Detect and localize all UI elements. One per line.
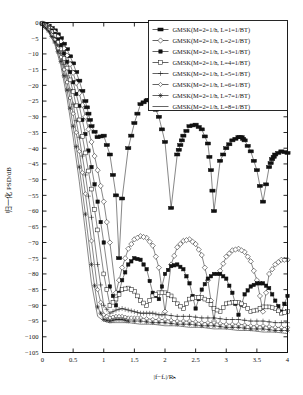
data-point: [227, 143, 232, 146]
data-point: [237, 313, 240, 316]
data-point: [98, 311, 103, 316]
data-point: [264, 305, 268, 309]
data-point: [260, 200, 265, 203]
data-point: [80, 135, 84, 139]
data-point: [212, 323, 217, 328]
y-tick-label: −50: [28, 176, 39, 183]
data-point: [245, 144, 250, 147]
data-point: [169, 321, 174, 326]
data-point: [254, 327, 259, 332]
data-point: [142, 263, 145, 266]
data-point: [240, 302, 244, 306]
data-point: [158, 93, 163, 98]
y-tick-label: −80: [28, 270, 39, 277]
data-point: [77, 118, 81, 122]
data-point: [191, 296, 195, 300]
data-point: [129, 288, 133, 292]
data-point: [129, 134, 134, 137]
data-point: [136, 257, 139, 260]
data-point: [160, 285, 163, 288]
data-point: [92, 283, 97, 288]
data-point: [252, 309, 256, 313]
data-point: [276, 151, 281, 154]
data-point: [258, 307, 262, 311]
data-point: [83, 100, 88, 103]
data-point: [166, 292, 170, 296]
data-point: [181, 134, 186, 137]
y-tick-label: −35: [28, 129, 39, 136]
data-point: [159, 128, 164, 131]
data-point: [234, 300, 238, 304]
data-point: [102, 241, 105, 244]
data-point: [157, 297, 160, 300]
data-point: [270, 306, 274, 310]
data-point: [90, 187, 94, 191]
data-point: [96, 228, 100, 232]
data-point: [144, 319, 149, 324]
data-point: [193, 323, 198, 328]
data-point: [123, 271, 126, 274]
data-point: [90, 165, 93, 168]
legend-label: GMSK(M=2=1/h, L=6=1/BT): [173, 81, 251, 89]
data-point: [221, 275, 224, 278]
data-point: [145, 268, 148, 271]
data-point: [271, 155, 276, 158]
legend-label: GMSK(M=2=1/h, L=3=1/BT): [173, 48, 251, 56]
data-point: [218, 324, 223, 329]
data-point: [221, 306, 225, 310]
data-point: [283, 311, 287, 315]
y-tick-label: −90: [28, 302, 39, 309]
data-point: [120, 197, 125, 200]
data-point: [93, 208, 97, 212]
data-point: [156, 115, 161, 118]
data-point: [130, 260, 133, 263]
data-point: [163, 320, 168, 325]
data-point: [163, 272, 166, 275]
data-point: [176, 148, 181, 151]
x-tick-label: 0.5: [69, 356, 78, 363]
data-point: [227, 301, 231, 305]
data-point: [221, 153, 226, 156]
data-point: [185, 302, 189, 306]
y-tick-label: −5: [31, 35, 39, 42]
data-point: [184, 129, 189, 132]
x-tick-label: 1: [102, 356, 105, 363]
data-point: [175, 153, 180, 156]
data-point: [107, 153, 112, 156]
data-point: [117, 317, 122, 322]
data-point: [111, 300, 115, 304]
data-point: [126, 147, 131, 150]
data-point: [279, 328, 284, 333]
legend: GMSK(M=2=1/h, L=1=1/BT)GMSK(M=2=1/h, L=2…: [149, 21, 288, 111]
data-point: [156, 320, 161, 325]
y-tick-label: −25: [28, 97, 39, 104]
data-point: [218, 159, 223, 162]
data-point: [274, 299, 277, 302]
data-point: [172, 264, 175, 267]
data-point: [202, 135, 207, 138]
data-point: [196, 126, 201, 129]
data-point: [203, 282, 206, 285]
data-point: [154, 292, 158, 296]
data-point: [160, 291, 164, 295]
data-point: [242, 326, 247, 331]
psd-chart: 00.511.522.533.54 0−5−10−15−20−25−30−35−…: [0, 0, 303, 395]
data-point: [240, 137, 245, 140]
data-point: [210, 189, 215, 192]
y-tick-label: −55: [28, 192, 39, 199]
data-point: [178, 144, 183, 147]
data-point: [224, 147, 229, 150]
y-tick-label: −85: [28, 286, 39, 293]
data-point: [172, 298, 176, 302]
y-tick-label: −70: [28, 239, 39, 246]
data-point: [185, 275, 188, 278]
x-tick-label: 3.5: [253, 356, 262, 363]
data-point: [142, 301, 146, 305]
data-point: [257, 184, 262, 187]
data-point: [148, 279, 151, 282]
y-tick-label: −40: [28, 145, 39, 152]
data-point: [267, 166, 272, 169]
data-point: [254, 169, 259, 172]
y-tick-label: −45: [28, 160, 39, 167]
data-point: [159, 61, 163, 65]
